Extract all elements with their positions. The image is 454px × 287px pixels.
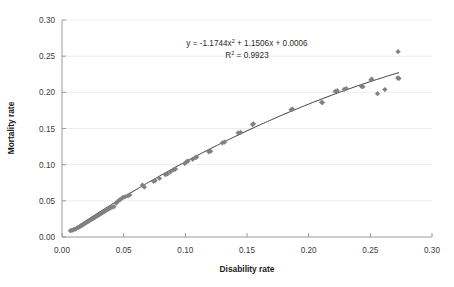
y-tick-label: 0.00 xyxy=(39,233,55,242)
scatter-chart: 0.000.050.100.150.200.250.30 0.000.050.1… xyxy=(0,0,454,287)
x-tick-label: 0.30 xyxy=(424,246,440,255)
y-tick-label: 0.05 xyxy=(39,197,55,206)
y-tick-label: 0.20 xyxy=(39,88,55,97)
y-tick-label: 0.30 xyxy=(39,16,55,25)
y-tick-label: 0.10 xyxy=(39,161,55,170)
x-tick-label: 0.15 xyxy=(239,246,255,255)
chart-canvas: 0.000.050.100.150.200.250.30 0.000.050.1… xyxy=(0,0,454,287)
x-tick-label: 0.25 xyxy=(362,246,378,255)
x-tick-label: 0.20 xyxy=(301,246,317,255)
trendline-equation-label: y = -1.1744x2 + 1.1506x + 0.0006 xyxy=(186,38,308,48)
y-tick-label: 0.15 xyxy=(39,125,55,134)
y-tick-label: 0.25 xyxy=(39,52,55,61)
x-tick-label: 0.10 xyxy=(177,246,193,255)
r-squared-exponent: 2 xyxy=(231,50,234,56)
y-axis-title: Mortality rate xyxy=(6,101,16,154)
x-axis-title: Disability rate xyxy=(220,264,275,274)
x-tick-label: 0.05 xyxy=(116,246,132,255)
x-tick-label: 0.00 xyxy=(54,246,70,255)
equation-exponent: 2 xyxy=(232,38,235,44)
